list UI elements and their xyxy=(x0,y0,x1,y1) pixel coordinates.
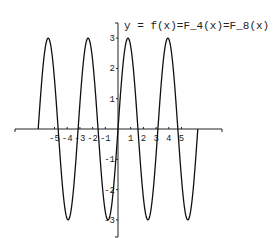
x-tick-label: 1 xyxy=(128,134,133,144)
x-tick-label: -4 xyxy=(62,134,73,144)
y-tick-label: -1 xyxy=(104,155,115,165)
y-tick-label: 3 xyxy=(110,34,115,44)
x-tick-label: 5 xyxy=(179,134,184,144)
chart-title: y = f(x)=F_4(x)=F_8(x) xyxy=(124,20,269,32)
x-tick-label: -1 xyxy=(100,134,111,144)
y-tick-label: 2 xyxy=(110,64,115,74)
function-plot: -5-4-3-2-112345-3-2-1123 xyxy=(0,0,273,238)
x-tick-label: 2 xyxy=(141,134,146,144)
x-tick-label: 4 xyxy=(166,134,171,144)
y-tick-label: 1 xyxy=(110,95,115,105)
x-tick-label: -2 xyxy=(87,134,98,144)
ticks: -5-4-3-2-112345-3-2-1123 xyxy=(49,34,184,226)
x-tick-label: -3 xyxy=(74,134,85,144)
